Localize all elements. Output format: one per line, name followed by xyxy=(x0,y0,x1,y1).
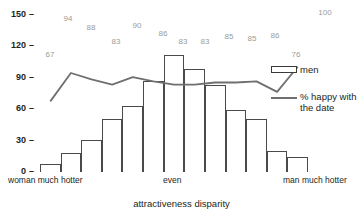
plot-area xyxy=(40,14,308,172)
y-tick-label: 30 xyxy=(16,135,26,145)
y-tick-label: 120 xyxy=(11,40,26,50)
pct-label: 94 xyxy=(64,14,73,23)
bar-13 xyxy=(287,157,308,172)
legend-label-men: men xyxy=(300,64,318,75)
y-tick-label: 60 xyxy=(16,103,26,113)
bar-1 xyxy=(40,164,61,172)
legend-entry-men: men xyxy=(271,64,363,75)
bar-6 xyxy=(143,81,164,172)
y-tick-label: 150 xyxy=(11,9,26,19)
bar-9 xyxy=(205,85,226,172)
pct-label: 83 xyxy=(179,37,188,46)
bar-12 xyxy=(267,151,288,172)
y-axis-tick-30: 30– xyxy=(0,135,34,145)
bar-7 xyxy=(164,55,185,172)
tick-dash: – xyxy=(29,9,34,19)
x-label-even: even xyxy=(163,175,181,185)
tick-dash: – xyxy=(29,40,34,50)
bar-4 xyxy=(102,119,123,172)
pct-label: 67 xyxy=(46,50,55,59)
bar-8 xyxy=(184,69,205,172)
pct-label: 85 xyxy=(248,34,257,43)
bar-11 xyxy=(246,119,267,172)
bar-2 xyxy=(61,153,82,172)
x-label-woman-much-hotter: woman much hotter xyxy=(8,175,83,185)
tick-dash: – xyxy=(29,103,34,113)
y-axis-tick-150: 150– xyxy=(0,9,34,19)
legend-label-happy-line1: % happy with xyxy=(300,91,357,102)
line-swatch-icon xyxy=(271,97,297,99)
tick-dash: – xyxy=(29,72,34,82)
chart-legend: men % happy with the date xyxy=(271,64,363,129)
pct-label: 85 xyxy=(225,32,234,41)
pct-label: 76 xyxy=(292,50,301,59)
pct-label: 83 xyxy=(112,37,121,46)
pct-label: 90 xyxy=(133,21,142,30)
y-axis-tick-60: 60– xyxy=(0,103,34,113)
x-axis-title: attractiveness disparity xyxy=(0,198,363,209)
y-tick-label: 90 xyxy=(16,72,26,82)
chart-container: 150– 120– 90– 60– 30– 0– 67 94 88 83 90 … xyxy=(0,0,363,218)
x-label-man-much-hotter: man much hotter xyxy=(283,175,347,185)
bar-swatch-icon xyxy=(271,66,297,73)
tick-dash: – xyxy=(29,135,34,145)
y-axis-tick-120: 120– xyxy=(0,40,34,50)
bar-10 xyxy=(226,110,247,172)
pct-label: 88 xyxy=(87,23,96,32)
y-axis-tick-90: 90– xyxy=(0,72,34,82)
legend-entry-happy: % happy with the date xyxy=(271,91,363,113)
bar-3 xyxy=(81,140,102,172)
pct-label: 86 xyxy=(159,29,168,38)
pct-label: 83 xyxy=(201,37,210,46)
bar-5 xyxy=(122,106,143,172)
pct-label: 86 xyxy=(271,31,280,40)
legend-label-happy: % happy with the date xyxy=(300,91,357,113)
pct-label: 100 xyxy=(318,8,331,17)
legend-label-happy-line2: the date xyxy=(300,102,357,113)
